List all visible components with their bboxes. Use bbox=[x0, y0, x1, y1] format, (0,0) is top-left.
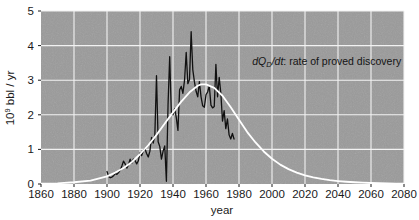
x-tick-label: 1980 bbox=[226, 188, 252, 200]
discovery-rate-chart: 012345 186018801900192019401960198020002… bbox=[0, 0, 419, 220]
chart-figure: 012345 186018801900192019401960198020002… bbox=[0, 0, 419, 220]
x-tick-label: 1960 bbox=[193, 188, 219, 200]
x-tick-label: 2000 bbox=[259, 188, 285, 200]
x-tick-label: 1900 bbox=[94, 188, 120, 200]
y-axis-label: 109 bbl / yr bbox=[3, 70, 16, 125]
x-tick-label: 1880 bbox=[61, 188, 87, 200]
x-tick-label: 2080 bbox=[391, 188, 417, 200]
y-tick-label: 5 bbox=[28, 5, 34, 17]
plot-background-texture bbox=[41, 11, 404, 184]
y-tick-label: 3 bbox=[28, 74, 34, 86]
y-tick-label: 1 bbox=[28, 143, 34, 155]
y-tick-label: 4 bbox=[28, 40, 35, 52]
y-label-rest: bbl / yr bbox=[4, 70, 16, 108]
x-tick-label: 2060 bbox=[358, 188, 384, 200]
x-tick-label: 1940 bbox=[160, 188, 186, 200]
x-tick-label: 1920 bbox=[127, 188, 153, 200]
x-tick-label: 2040 bbox=[325, 188, 351, 200]
annot-rest: : rate of proved discovery bbox=[283, 55, 402, 67]
x-tick-label: 2020 bbox=[292, 188, 318, 200]
annot-Q: Q bbox=[258, 55, 266, 67]
x-axis-label: year bbox=[211, 204, 234, 216]
y-label-base: 10 bbox=[4, 113, 16, 126]
y-tick-label: 2 bbox=[28, 109, 34, 121]
x-tick-label: 1860 bbox=[28, 188, 54, 200]
plot-area bbox=[41, 11, 404, 184]
